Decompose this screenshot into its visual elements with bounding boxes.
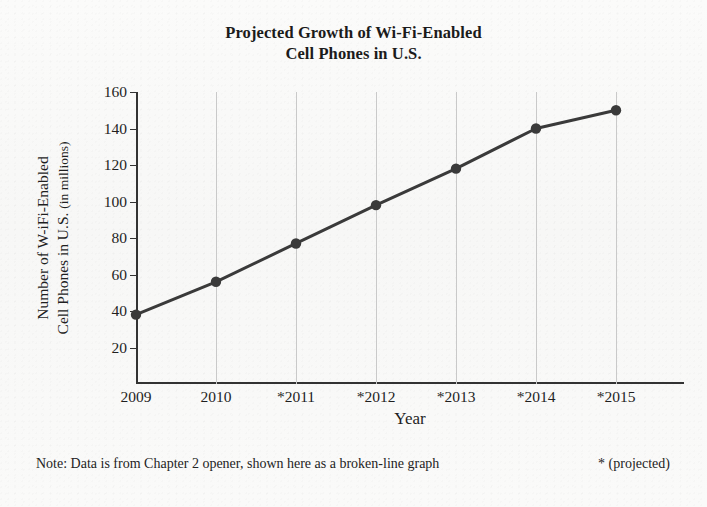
y-tick-label-100: 100 bbox=[104, 193, 127, 211]
chart-title-line-1: Projected Growth of Wi-Fi-Enabled bbox=[0, 22, 707, 43]
y-tick-label-140: 140 bbox=[104, 120, 127, 138]
data-point-2013 bbox=[451, 163, 461, 173]
y-axis-title-line-1: Number of W-iFi-Enabled bbox=[33, 156, 53, 319]
chart-title-line-2: Cell Phones in U.S. bbox=[0, 43, 707, 64]
plot-area: 16014012010080604020 20092010*2011*2012*… bbox=[136, 92, 684, 384]
x-tick-label-2014: *2014 bbox=[517, 388, 556, 406]
x-tick-label-2015: *2015 bbox=[597, 388, 636, 406]
data-point-2012 bbox=[371, 200, 381, 210]
data-point-2011 bbox=[291, 238, 301, 248]
series-line-chart bbox=[136, 92, 684, 384]
y-tick-label-40: 40 bbox=[112, 302, 128, 320]
chart-title: Projected Growth of Wi-Fi-Enabled Cell P… bbox=[0, 22, 707, 64]
y-axis-title-line-2: Cell Phones in U.S. (in millions) bbox=[53, 142, 74, 335]
footnote-note: Note: Data is from Chapter 2 opener, sho… bbox=[36, 456, 439, 472]
data-point-2010 bbox=[211, 277, 221, 287]
x-tick-label-2010: 2010 bbox=[201, 388, 232, 406]
y-tick-label-160: 160 bbox=[104, 83, 127, 101]
x-tick-label-2013: *2013 bbox=[437, 388, 476, 406]
data-point-2015 bbox=[611, 105, 621, 115]
y-tick-label-120: 120 bbox=[104, 156, 127, 174]
x-tick-label-2012: *2012 bbox=[357, 388, 396, 406]
x-tick-label-2009: 2009 bbox=[121, 388, 152, 406]
data-point-2009 bbox=[131, 309, 141, 319]
x-axis-title: Year bbox=[136, 409, 684, 429]
x-tick-label-2011: *2011 bbox=[277, 388, 315, 406]
y-axis-title-line-2-main: Cell Phones in U.S. bbox=[54, 213, 71, 335]
y-tick-label-80: 80 bbox=[112, 229, 128, 247]
data-point-2014 bbox=[531, 123, 541, 133]
footnote: Note: Data is from Chapter 2 opener, sho… bbox=[36, 456, 676, 472]
y-axis-title: Number of W-iFi-Enabled Cell Phones in U… bbox=[26, 92, 80, 384]
series-polyline bbox=[136, 110, 616, 314]
chart-figure: Projected Growth of Wi-Fi-Enabled Cell P… bbox=[0, 0, 707, 507]
footnote-projected-key: * (projected) bbox=[598, 456, 676, 472]
y-tick-label-20: 20 bbox=[112, 339, 128, 357]
y-axis-title-units: (in millions) bbox=[56, 142, 71, 209]
y-tick-label-60: 60 bbox=[112, 266, 128, 284]
